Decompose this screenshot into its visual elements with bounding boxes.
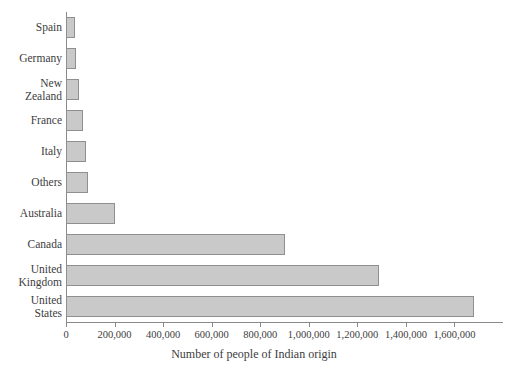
tick-mark	[309, 322, 310, 327]
tick-label: 400,000	[146, 329, 180, 341]
category-label-germany: Germany	[0, 43, 62, 74]
bar-spain	[66, 12, 75, 43]
bar-rect	[66, 110, 83, 131]
tick-label: 1,000,000	[288, 329, 330, 341]
bar-rect	[66, 141, 86, 162]
tick-mark	[454, 322, 455, 327]
bar-germany	[66, 43, 76, 74]
bar-rect	[66, 234, 285, 255]
tick-mark	[260, 322, 261, 327]
bar-rect	[66, 296, 474, 317]
bar-rect	[66, 172, 88, 193]
tick-mark	[66, 322, 67, 327]
category-label-australia: Australia	[0, 198, 62, 229]
category-label-france: France	[0, 105, 62, 136]
bar-others	[66, 167, 88, 198]
bar-chart: SpainGermanyNew ZealandFranceItalyOthers…	[0, 0, 508, 373]
tick-mark	[406, 322, 407, 327]
tick-label: 1,600,000	[433, 329, 475, 341]
category-label-others: Others	[0, 167, 62, 198]
bar-rect	[66, 79, 79, 100]
bar-france	[66, 105, 83, 136]
bar-australia	[66, 198, 115, 229]
bar-rect	[66, 17, 75, 38]
tick-mark	[115, 322, 116, 327]
x-axis-title: Number of people of Indian origin	[0, 347, 508, 362]
tick-mark	[357, 322, 358, 327]
tick-mark	[163, 322, 164, 327]
bar-new-zealand	[66, 74, 79, 105]
tick-mark	[212, 322, 213, 327]
bar-united-states	[66, 291, 474, 322]
x-axis-line	[66, 322, 503, 323]
bar-canada	[66, 229, 285, 260]
category-label-italy: Italy	[0, 136, 62, 167]
category-label-canada: Canada	[0, 229, 62, 260]
tick-label: 1,200,000	[336, 329, 378, 341]
bar-rect	[66, 48, 76, 69]
bar-italy	[66, 136, 86, 167]
tick-label: 0	[63, 329, 68, 341]
category-label-new-zealand: New Zealand	[0, 74, 62, 105]
category-label-united-kingdom: United Kingdom	[0, 260, 62, 291]
bar-rect	[66, 203, 115, 224]
category-label-united-states: United States	[0, 291, 62, 322]
tick-label: 1,400,000	[385, 329, 427, 341]
tick-label: 200,000	[97, 329, 131, 341]
tick-label: 600,000	[195, 329, 229, 341]
bar-rect	[66, 265, 379, 286]
bar-united-kingdom	[66, 260, 379, 291]
category-label-spain: Spain	[0, 12, 62, 43]
tick-label: 800,000	[243, 329, 277, 341]
